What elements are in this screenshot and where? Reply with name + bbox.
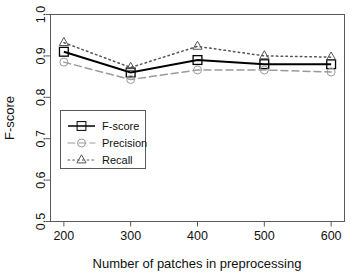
y-tick-label: 0.7 xyxy=(34,130,48,147)
line-chart: 0.50.60.70.80.91.0 200300400500600 Numbe… xyxy=(0,0,356,275)
x-tick-label: 200 xyxy=(53,229,74,243)
y-tick-label: 0.8 xyxy=(34,89,48,106)
legend-label-recall: Recall xyxy=(102,154,133,166)
legend-label-precision: Precision xyxy=(102,137,147,149)
y-tick-label: 0.5 xyxy=(34,213,48,230)
x-tick-label: 400 xyxy=(187,229,208,243)
x-tick-label: 300 xyxy=(120,229,141,243)
x-tick-label: 500 xyxy=(254,229,275,243)
y-axis-title: F-score xyxy=(2,96,17,140)
x-axis-title: Number of patches in preprocessing xyxy=(93,256,302,271)
x-tick-label: 600 xyxy=(321,229,342,243)
chart-legend: F-scorePrecisionRecall xyxy=(61,111,148,169)
y-tick-label: 1.0 xyxy=(34,6,48,23)
y-tick-label: 0.9 xyxy=(34,47,48,64)
legend-label-f-score: F-score xyxy=(102,120,139,132)
chart-figure: 0.50.60.70.80.91.0 200300400500600 Numbe… xyxy=(0,0,356,275)
y-tick-label: 0.6 xyxy=(34,171,48,188)
